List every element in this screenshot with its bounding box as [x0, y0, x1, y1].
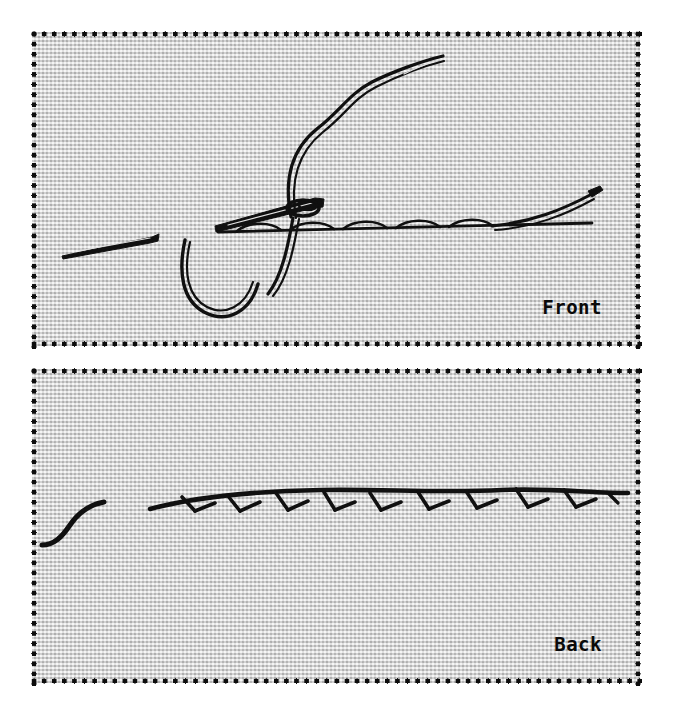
thread-loop: [182, 240, 258, 317]
panel-label-front: Front: [542, 296, 602, 318]
back-illustration: [32, 369, 640, 683]
needle-tip-icon: [62, 234, 159, 259]
panel-front: Front: [32, 32, 640, 346]
stitch-line: [218, 220, 592, 232]
stitch-line-back: [150, 489, 628, 511]
panel-back: Back: [32, 369, 640, 683]
thread-tail-upper: [288, 56, 444, 218]
figure-root: Front: [0, 0, 683, 712]
panel-label-back: Back: [554, 633, 602, 655]
thread-tail-left: [42, 502, 104, 545]
